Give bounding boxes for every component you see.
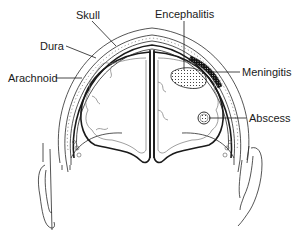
left-ear-outline xyxy=(38,143,54,230)
arachnoid-label: Arachnoid xyxy=(8,72,58,84)
arachnoid-layer xyxy=(76,49,228,150)
leader-lines xyxy=(56,21,246,118)
left-hemisphere xyxy=(81,52,150,162)
head-cross-section-diagram: Skull Dura Arachnoid Encephalitis Mening… xyxy=(0,0,299,243)
skull-wall-right xyxy=(238,160,240,172)
falx-cerebri xyxy=(150,50,154,158)
left-ear xyxy=(38,143,54,230)
right-ear xyxy=(238,146,262,226)
dura-label: Dura xyxy=(40,40,65,52)
abscess-lesion xyxy=(198,112,210,124)
skull-inner xyxy=(70,41,234,158)
meningitis-label: Meningitis xyxy=(242,66,292,78)
csf-spaces xyxy=(72,140,231,157)
skull-wall-left xyxy=(66,160,68,172)
right-ear-outline xyxy=(238,146,262,226)
left-cortex-gyri-inner xyxy=(92,66,112,130)
abscess-label: Abscess xyxy=(249,112,291,124)
encephalitis-label: Encephalitis xyxy=(155,8,215,20)
right-ear-fold xyxy=(240,156,253,210)
left-cortex-gyri xyxy=(86,58,146,153)
skull-leader xyxy=(92,21,116,46)
dura-leader xyxy=(66,46,96,58)
right-cortex-gyri-inner xyxy=(158,82,168,120)
skull-label: Skull xyxy=(76,9,100,21)
left-hemisphere-outline xyxy=(81,52,150,162)
encephalitis-lesion xyxy=(171,68,206,89)
